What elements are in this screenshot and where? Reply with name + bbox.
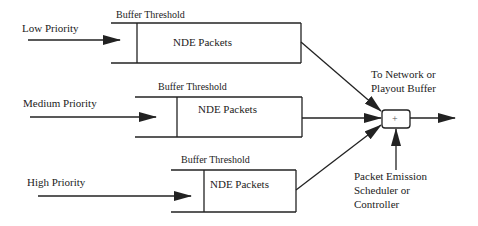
- low-buffer-threshold-label: Buffer Threshold: [116, 8, 185, 21]
- high-buffer-threshold-label: Buffer Threshold: [181, 153, 250, 166]
- medium-buffer-threshold-label: Buffer Threshold: [158, 80, 227, 93]
- combiner-plus-symbol: +: [392, 112, 398, 125]
- scheduler-label-line2: Scheduler or: [354, 184, 410, 197]
- scheduler-label-line3: Controller: [354, 198, 399, 211]
- scheduler-label-line1: Packet Emission: [354, 170, 427, 183]
- output-label-line1: To Network or: [371, 68, 436, 81]
- low-nde-packets-label: NDE Packets: [173, 36, 232, 49]
- medium-priority-label: Medium Priority: [23, 97, 97, 110]
- low-to-combiner-arrow: [301, 42, 381, 111]
- high-nde-packets-label: NDE Packets: [210, 178, 269, 191]
- medium-nde-packets-label: NDE Packets: [198, 103, 257, 116]
- low-priority-label: Low Priority: [22, 22, 79, 35]
- high-priority-label: High Priority: [27, 176, 85, 189]
- output-label-line2: Playout Buffer: [371, 82, 436, 95]
